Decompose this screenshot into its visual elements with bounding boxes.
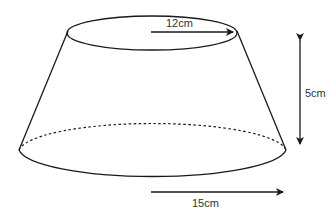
top-radius-label: 12cm [166,17,193,29]
bottom-ellipse-hidden-edge [19,124,286,150]
top-ellipse [67,16,237,50]
right-side-edge [237,31,286,150]
frustum-diagram: 12cm 5cm 15cm [0,0,336,219]
bottom-ellipse-visible-edge [19,150,286,176]
height-label: 5cm [305,87,326,99]
bottom-radius-label: 15cm [192,197,219,209]
left-side-edge [19,31,68,150]
